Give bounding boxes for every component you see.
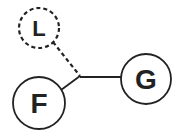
- diagram-canvas: L F G: [0, 0, 180, 136]
- node-f: F: [13, 77, 65, 129]
- node-g-label: G: [135, 64, 157, 95]
- node-l-label: L: [32, 16, 45, 41]
- node-l: L: [19, 8, 59, 48]
- edge-f-junction: [61, 76, 80, 90]
- edge-l-junction: [53, 42, 80, 76]
- node-g: G: [121, 54, 171, 104]
- node-f-label: F: [30, 88, 47, 119]
